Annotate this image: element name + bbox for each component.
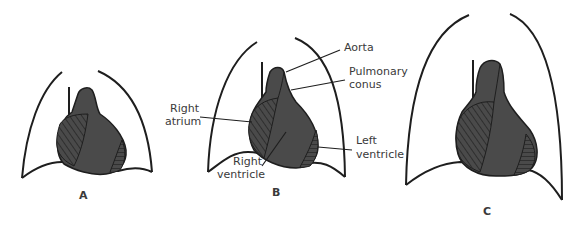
label-left-ventricle-line1: Left — [356, 135, 377, 147]
panel-letter-c: C — [483, 205, 491, 218]
right-atrium-leader — [200, 117, 252, 122]
label-pulmonary-conus-line2: conus — [349, 79, 381, 91]
label-pulmonary-conus-line1: Pulmonary — [349, 66, 408, 78]
aorta-leader — [286, 50, 340, 72]
heart-chest-diagram: Aorta Pulmonary conus Right atrium Left … — [0, 0, 585, 230]
panel-b — [200, 38, 352, 177]
label-right-ventricle-line2: ventricle — [217, 169, 265, 181]
left-ventricle-leader — [318, 147, 352, 150]
label-right-ventricle-line1: Right — [233, 156, 262, 168]
panel-letter-b: B — [272, 186, 280, 199]
pulmonary-conus-leader — [291, 80, 345, 90]
panel-a — [22, 71, 152, 178]
label-aorta: Aorta — [344, 42, 374, 54]
label-right-atrium-line1: Right — [170, 103, 199, 115]
panel-c — [406, 14, 562, 200]
label-left-ventricle-line2: ventricle — [356, 149, 404, 161]
label-right-atrium-line2: atrium — [165, 116, 201, 128]
panel-letter-a: A — [79, 189, 88, 202]
